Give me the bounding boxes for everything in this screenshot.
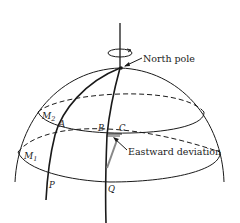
- north-pole-arrowhead-icon: [124, 62, 130, 67]
- eastward-deviation-label: Eastward deviation: [128, 146, 221, 157]
- coriolis-hemisphere-diagram: North pole Eastward deviation M2 M1 A B …: [0, 0, 240, 223]
- m1-label-sub: 1: [33, 155, 37, 163]
- point-q-label: Q: [108, 184, 115, 194]
- m2-circle-back: [38, 94, 204, 112]
- point-b-label: B: [97, 123, 104, 133]
- north-pole-label: North pole: [143, 53, 195, 64]
- deviation-path: [107, 140, 117, 168]
- north-pole-point: [119, 66, 123, 70]
- point-a-label: A: [58, 119, 65, 129]
- m2-label-sub: 2: [50, 115, 55, 123]
- meridian-right: [106, 68, 120, 223]
- point-p-label: P: [48, 180, 55, 190]
- point-c-label: C: [119, 123, 126, 133]
